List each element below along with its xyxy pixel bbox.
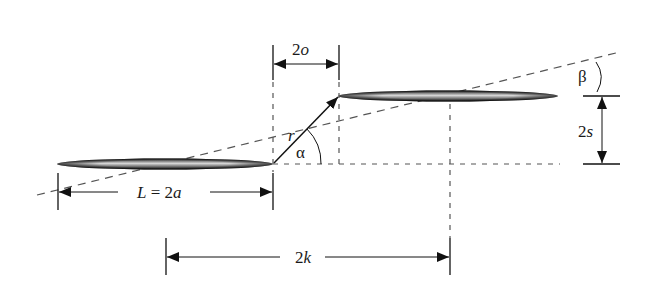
alpha-angle: α: [296, 129, 321, 164]
center-distance-label: 2k: [295, 248, 312, 267]
separation-height-dimension: 2s: [578, 96, 620, 164]
separation-vector: r: [274, 97, 338, 163]
center-distance-dimension: 2k: [166, 238, 450, 275]
beta-angle: β: [578, 62, 601, 92]
length-dimension: L = 2a: [58, 173, 273, 210]
orientation-dashed-line: [37, 52, 620, 195]
right-rod: [338, 91, 558, 102]
offset-label: 2o: [292, 40, 309, 59]
length-label: L = 2a: [136, 183, 182, 202]
offset-dimension: 2o: [273, 40, 339, 80]
left-rod: [57, 159, 273, 170]
alpha-label: α: [296, 143, 305, 162]
separation-height-label: 2s: [578, 122, 594, 141]
beta-label: β: [578, 67, 587, 86]
diagram-canvas: 2o r α β 2s L = 2a 2k: [0, 0, 653, 297]
vector-label: r: [288, 126, 295, 145]
